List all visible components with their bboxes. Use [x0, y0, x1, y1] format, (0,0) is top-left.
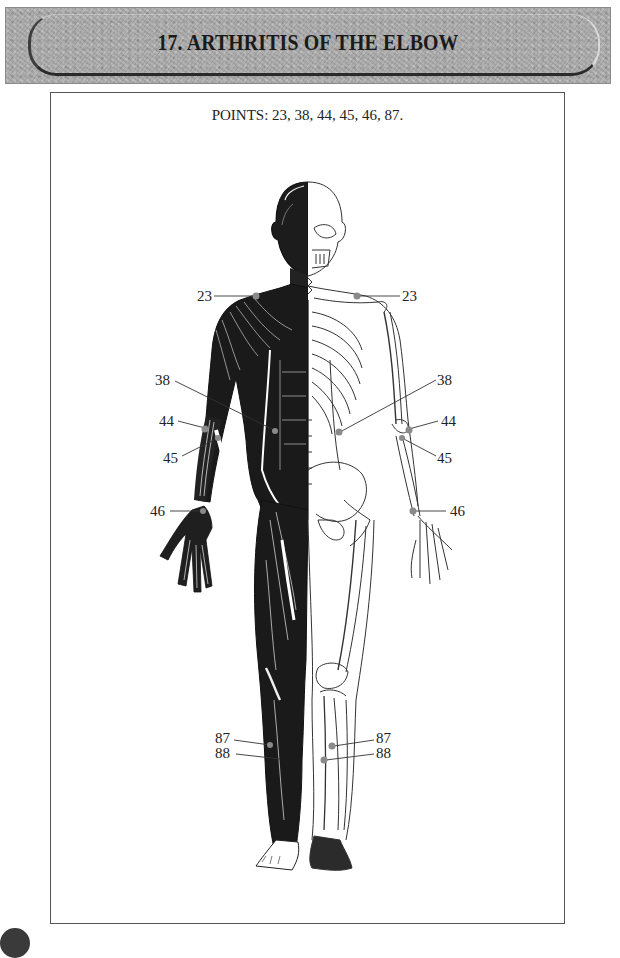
point-label-38-right: 38: [437, 373, 452, 388]
point-label-46-right: 46: [450, 504, 465, 519]
skeleton-half: [304, 182, 452, 870]
point-label-87-left: 87: [215, 731, 230, 746]
point-label-23-right: 23: [402, 289, 417, 304]
muscle-half: [160, 182, 308, 870]
point-label-88-left: 88: [215, 746, 230, 761]
point-label-23-left: 23: [197, 289, 212, 304]
point-label-44-right: 44: [441, 414, 456, 429]
page-corner-marker: [0, 928, 30, 958]
point-label-45-left: 45: [163, 451, 178, 466]
point-label-38-left: 38: [155, 373, 170, 388]
point-label-46-left: 46: [150, 504, 165, 519]
point-label-45-right: 45: [437, 451, 452, 466]
point-label-44-left: 44: [159, 414, 174, 429]
point-label-88-right: 88: [376, 746, 391, 761]
point-label-87-right: 87: [376, 731, 391, 746]
